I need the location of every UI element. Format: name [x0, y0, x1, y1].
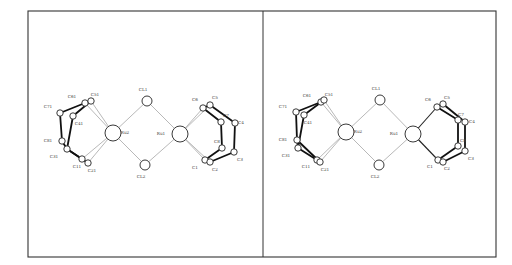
atom-label-c2: C2	[444, 166, 450, 171]
atom-label-c61: C61	[303, 93, 312, 98]
atom-label-c81: C81	[44, 138, 53, 143]
atom-c5	[207, 102, 213, 108]
bonds	[60, 101, 235, 165]
atom-label-c7: C7	[458, 112, 464, 117]
bond-c4-c3	[234, 123, 235, 152]
bond-c7-c8	[221, 122, 222, 148]
atom-label-ru1: Ru1	[390, 131, 399, 136]
atom-label-c8: C8	[460, 138, 466, 143]
atom-label-c31: C31	[282, 153, 291, 158]
bonds	[296, 100, 465, 165]
atom-label-c6: C6	[425, 97, 431, 102]
atom-label-c3: C3	[468, 156, 474, 161]
stereo-figure: Ru2Ru1CL1CL2C71C61C51C41C81C31C11C21C6C5…	[0, 0, 512, 265]
atom-c51	[88, 98, 94, 104]
panel-left-view: Ru2Ru1CL1CL2C71C61C51C41C81C31C11C21C6C5…	[44, 87, 245, 179]
bond-c3-c2	[443, 151, 465, 162]
figure-frame	[28, 11, 496, 257]
atom-cl2	[140, 160, 150, 170]
atom-label-c1: C1	[427, 164, 433, 169]
atom-label-c2: C2	[212, 167, 218, 172]
atom-label-c51: C51	[325, 92, 334, 97]
atom-c2	[440, 159, 446, 165]
atom-label-c31: C31	[50, 154, 59, 159]
atom-label-cl1: CL1	[372, 86, 381, 91]
atom-label-c8: C8	[214, 139, 220, 144]
atom-label-cl2: CL2	[137, 174, 146, 179]
atom-label-c11: C11	[302, 164, 311, 169]
atom-label-c41: C41	[304, 120, 313, 125]
panels: Ru2Ru1CL1CL2C71C61C51C41C81C31C11C21C6C5…	[44, 86, 476, 179]
atom-label-c41: C41	[75, 121, 84, 126]
atom-ru2	[105, 125, 121, 141]
atom-c61	[82, 100, 88, 106]
atom-label-c4: C4	[469, 119, 475, 124]
atom-c31	[295, 145, 301, 151]
atom-c4	[462, 119, 468, 125]
bond-c8-c1	[438, 146, 458, 160]
panel-right-view: Ru2Ru1CL1CL2C71C61C51C41C81C31C11C21C6C5…	[279, 86, 476, 179]
atom-c21	[317, 159, 323, 165]
atom-c81	[294, 137, 300, 143]
atom-label-c61: C61	[68, 94, 77, 99]
atom-c3	[462, 148, 468, 154]
atom-ru1	[172, 126, 188, 142]
atom-cl1	[375, 95, 385, 105]
molecule-stereo-svg: Ru2Ru1CL1CL2C71C61C51C41C81C31C11C21C6C5…	[0, 0, 512, 265]
atom-label-c7: C7	[223, 113, 229, 118]
atom-label-cl2: CL2	[371, 174, 380, 179]
atom-label-c81: C81	[279, 137, 288, 142]
atom-label-c5: C5	[444, 95, 450, 100]
atom-c8	[219, 145, 225, 151]
atom-label-c51: C51	[91, 92, 100, 97]
atom-label-c5: C5	[212, 95, 218, 100]
bond-c71-c81	[60, 113, 62, 141]
atom-c41	[70, 113, 76, 119]
atom-ru2	[338, 124, 354, 140]
atom-c21	[85, 160, 91, 166]
atom-cl1	[142, 96, 152, 106]
atom-c6	[434, 104, 440, 110]
atom-label-c21: C21	[321, 167, 330, 172]
atom-c2	[207, 159, 213, 165]
atom-label-c71: C71	[44, 104, 53, 109]
atom-ru1	[405, 126, 421, 142]
bond-c41-c31	[67, 116, 73, 149]
atom-label-c3: C3	[237, 157, 243, 162]
atom-label-c1: C1	[192, 165, 198, 170]
atom-label-c71: C71	[279, 104, 288, 109]
atom-label-ru1: Ru1	[157, 131, 166, 136]
atom-c7	[455, 117, 461, 123]
atom-cl2	[374, 160, 384, 170]
atom-c71	[57, 110, 63, 116]
atom-c8	[455, 143, 461, 149]
atom-label-cl1: CL1	[139, 87, 148, 92]
atom-c41	[301, 112, 307, 118]
atom-label-ru2: Ru2	[121, 130, 130, 135]
atom-c51	[321, 97, 327, 103]
atom-c3	[231, 149, 237, 155]
atom-c71	[293, 109, 299, 115]
atom-c11	[79, 156, 85, 162]
atom-label-c6: C6	[192, 97, 198, 102]
atom-label-ru2: Ru2	[354, 129, 363, 134]
atom-label-c21: C21	[88, 168, 97, 173]
bond-c71-c81	[296, 112, 297, 140]
atom-c7	[218, 119, 224, 125]
atom-c81	[59, 138, 65, 144]
atom-c31	[64, 146, 70, 152]
atom-label-c11: C11	[73, 164, 82, 169]
atom-c5	[440, 101, 446, 107]
atom-c6	[200, 105, 206, 111]
atom-label-c4: C4	[238, 120, 244, 125]
